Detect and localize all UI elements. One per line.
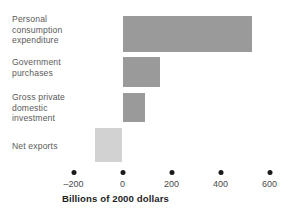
category-label-government-purchases: Government purchases [12, 57, 61, 78]
category-label-personal-consumption-expenditure: Personal consumption expenditure [12, 14, 62, 46]
category-label-gross-private-domestic-investment: Gross private domestic investment [12, 92, 65, 124]
x-tick-label-0: 0 [120, 179, 125, 189]
x-tick-label-600: 600 [262, 179, 277, 189]
x-axis-title: Billions of 2000 dollars [62, 193, 169, 204]
x-tick-label-200: 200 [164, 179, 179, 189]
x-tick-dot-400 [218, 170, 223, 175]
bar-net-exports [95, 128, 122, 162]
category-label-net-exports: Net exports [12, 141, 58, 152]
x-tick-dot-200 [169, 170, 174, 175]
bar-chart: Personal consumption expenditure Governm… [0, 0, 297, 214]
x-tick-dot-600 [267, 170, 272, 175]
bar-gross-private-domestic-investment [123, 93, 145, 122]
bar-personal-consumption-expenditure [123, 16, 253, 52]
bar-government-purchases [123, 57, 160, 87]
x-tick-label-minus200: –200 [63, 179, 83, 189]
x-tick-dot-0 [120, 170, 125, 175]
x-tick-dot-minus200 [71, 170, 76, 175]
x-tick-label-400: 400 [213, 179, 228, 189]
